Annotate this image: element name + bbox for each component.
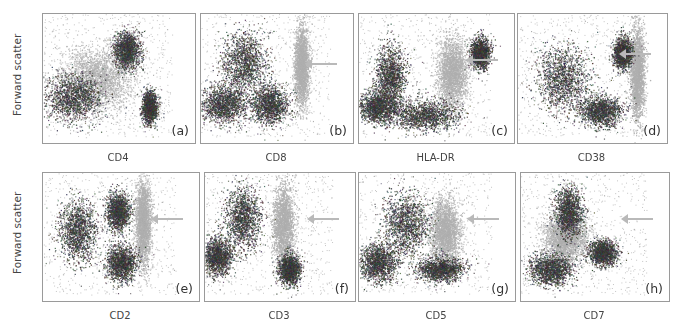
x-axis-label: CD5	[358, 310, 514, 321]
panel-letter: (e)	[176, 281, 193, 296]
x-axis-label: CD7	[520, 310, 668, 321]
arrow-icon	[627, 218, 653, 220]
arrow-icon	[473, 218, 499, 220]
x-axis-label: CD4	[42, 152, 194, 163]
arrow-icon	[472, 59, 498, 61]
panel-letter: (c)	[491, 123, 508, 138]
arrow-icon	[313, 218, 339, 220]
panel-letter: (d)	[643, 123, 661, 138]
panel-letter: (a)	[172, 123, 189, 138]
scatter-panel-e: (e)	[42, 172, 200, 302]
scatter-panel-g: (g)	[358, 172, 516, 302]
y-axis-label-top: Forward scatter	[11, 36, 23, 116]
x-axis-label: CD2	[42, 310, 198, 321]
arrow-icon	[157, 218, 183, 220]
arrow-icon	[625, 53, 651, 55]
scatter-panel-h: (h)	[520, 172, 670, 302]
x-axis-label: CD38	[517, 152, 666, 163]
x-axis-label: HLA-DR	[358, 152, 513, 163]
panel-letter: (f)	[335, 281, 349, 296]
scatter-panel-f: (f)	[204, 172, 356, 302]
panel-letter: (g)	[491, 281, 509, 296]
scatter-plot	[205, 173, 355, 301]
scatter-panel-a: (a)	[42, 13, 196, 144]
y-axis-label-bottom: Forward scatter	[11, 194, 23, 274]
x-axis-label: CD8	[200, 152, 352, 163]
scatter-panel-d: (d)	[517, 13, 668, 144]
scatter-panel-b: (b)	[200, 13, 354, 144]
x-axis-label: CD3	[204, 310, 354, 321]
panel-letter: (b)	[329, 123, 347, 138]
scatter-panel-c: (c)	[358, 13, 515, 144]
arrow-icon	[311, 63, 337, 65]
panel-letter: (h)	[645, 281, 663, 296]
